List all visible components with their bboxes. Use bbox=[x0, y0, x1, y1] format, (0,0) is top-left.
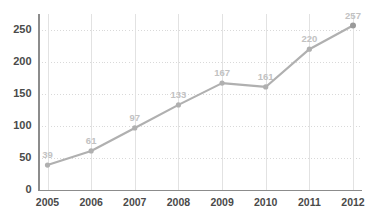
data-point-marker bbox=[132, 125, 137, 130]
data-point-label: 220 bbox=[301, 33, 317, 44]
x-axis-tick-label: 2010 bbox=[254, 196, 278, 208]
y-axis-tick-labels: 050100150200250 bbox=[13, 23, 31, 195]
x-axis-tick-labels: 20052006200720082009201020112012 bbox=[36, 196, 365, 208]
data-point-marker bbox=[307, 47, 312, 52]
x-axis-tick-label: 2008 bbox=[167, 196, 191, 208]
y-axis-tick-label: 100 bbox=[13, 119, 31, 131]
data-point-marker bbox=[350, 23, 356, 29]
data-point-marker bbox=[45, 162, 50, 167]
x-axis-tick-label: 2007 bbox=[123, 196, 147, 208]
chart-canvas: 050100150200250 200520062007200820092010… bbox=[0, 0, 371, 216]
y-axis-tick-label: 0 bbox=[25, 183, 31, 195]
x-axis-tick-label: 2005 bbox=[36, 196, 60, 208]
data-point-label: 97 bbox=[129, 112, 140, 123]
line-chart: 050100150200250 200520062007200820092010… bbox=[0, 0, 371, 216]
data-point-label: 39 bbox=[42, 149, 53, 160]
data-point-marker bbox=[219, 81, 224, 86]
data-point-marker bbox=[263, 84, 268, 89]
x-axis-tick-label: 2006 bbox=[79, 196, 103, 208]
data-point-label: 61 bbox=[86, 135, 97, 146]
x-axis-tick-label: 2012 bbox=[341, 196, 365, 208]
y-axis-tick-label: 50 bbox=[19, 151, 31, 163]
data-point-marker bbox=[176, 102, 181, 107]
x-axis-tick-label: 2009 bbox=[210, 196, 234, 208]
y-axis-tick-label: 250 bbox=[13, 23, 31, 35]
data-point-marker bbox=[89, 148, 94, 153]
data-point-label: 167 bbox=[214, 67, 230, 78]
data-point-label: 133 bbox=[170, 89, 186, 100]
data-point-label: 257 bbox=[345, 10, 361, 21]
y-axis-tick-label: 150 bbox=[13, 87, 31, 99]
x-axis-tick-label: 2011 bbox=[298, 196, 321, 208]
y-axis-tick-label: 200 bbox=[13, 55, 31, 67]
data-point-label: 161 bbox=[258, 71, 275, 82]
data-point-labels: 396197133167161220257 bbox=[42, 10, 361, 161]
